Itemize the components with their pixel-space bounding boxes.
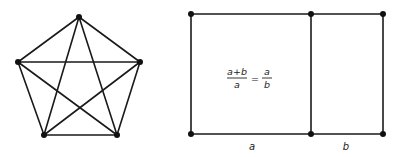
golden-rectangle: a+b a = a b a b [188, 11, 386, 152]
rhs-denominator: b [264, 79, 270, 90]
diagram-canvas: a+b a = a b a b [0, 0, 399, 157]
equals-sign: = [251, 73, 259, 84]
corner-bottom-middle [308, 131, 314, 137]
corner-bottom-right [380, 131, 386, 137]
lhs-numerator: a+b [227, 66, 247, 77]
complete-graph [15, 14, 143, 138]
edge-right-bottomright [117, 62, 140, 135]
edge-right-bottomleft [44, 62, 140, 135]
segment-label-a: a [249, 141, 255, 152]
corner-top-middle [308, 11, 314, 17]
golden-ratio-formula: a+b a = a b [227, 66, 272, 90]
corner-top-left [188, 11, 194, 17]
vertex-left [15, 59, 21, 65]
vertex-top [76, 14, 82, 20]
vertex-bottom-left [41, 132, 47, 138]
corner-top-right [380, 11, 386, 17]
vertex-right [137, 59, 143, 65]
corner-bottom-left [188, 131, 194, 137]
segment-label-b: b [343, 141, 349, 152]
edge-bottomleft-left [18, 62, 44, 135]
edge-left-bottomright [18, 62, 117, 135]
edge-top-bottomright [79, 17, 117, 135]
lhs-denominator: a [234, 79, 240, 90]
edge-top-right [79, 17, 140, 62]
vertex-bottom-right [114, 132, 120, 138]
edge-top-bottomleft [44, 17, 79, 135]
edge-left-top [18, 17, 79, 62]
rhs-numerator: a [264, 66, 270, 77]
